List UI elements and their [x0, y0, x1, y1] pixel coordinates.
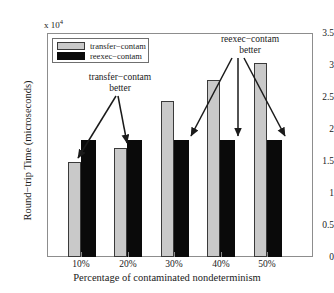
legend-swatch-reexec-contam — [57, 52, 85, 60]
bar-reexec-contam-30 — [174, 140, 189, 257]
x-axis-title: Percentage of contaminated nondeterminis… — [0, 272, 334, 283]
x-tick-label-20: 20% — [103, 259, 153, 269]
legend-item-transfer-contam: transfer−contam — [57, 41, 146, 51]
y-axis-multiplier-base: x 10 — [44, 20, 60, 30]
bar-transfer-contam-20 — [114, 148, 127, 257]
bar-reexec-contam-20 — [127, 140, 142, 257]
bar-transfer-contam-50 — [254, 63, 267, 257]
annotation-transfer-better-line1: transfer−contam — [60, 72, 180, 83]
bar-reexec-contam-40 — [220, 140, 235, 257]
bar-reexec-contam-10 — [81, 140, 96, 257]
legend-label-reexec-contam: reexec−contam — [90, 52, 142, 61]
x-tick-label-40: 40% — [196, 259, 246, 269]
annotation-reexec-better-line1: reexec−contam — [190, 34, 310, 45]
x-tick-mark — [221, 252, 222, 257]
chart-legend: transfer−contam reexec−contam — [52, 38, 149, 63]
y-axis-multiplier: x 104 — [44, 18, 63, 30]
annotation-transfer-better-line2: better — [60, 83, 180, 94]
annotation-reexec-better-line2: better — [190, 45, 310, 56]
chart-figure: x 104 Round−trip Time (microseconds) 0 0… — [0, 0, 334, 293]
legend-item-reexec-contam: reexec−contam — [57, 51, 142, 61]
legend-label-transfer-contam: transfer−contam — [90, 42, 146, 51]
annotation-transfer-better: transfer−contam better — [60, 72, 180, 94]
x-tick-mark — [128, 252, 129, 257]
y-axis-multiplier-exponent: 4 — [60, 18, 63, 25]
annotation-reexec-better: reexec−contam better — [190, 34, 310, 56]
x-tick-label-50: 50% — [242, 259, 292, 269]
x-tick-mark — [174, 252, 175, 257]
y-axis-title: Round−trip Time (microseconds) — [22, 61, 33, 241]
x-tick-mark — [81, 252, 82, 257]
x-tick-label-30: 30% — [149, 259, 199, 269]
x-tick-label-10: 10% — [56, 259, 106, 269]
bar-reexec-contam-50 — [267, 140, 282, 257]
bar-transfer-contam-30 — [161, 101, 174, 257]
x-tick-mark — [267, 252, 268, 257]
bar-transfer-contam-40 — [207, 80, 220, 257]
legend-swatch-transfer-contam — [57, 42, 85, 50]
bar-transfer-contam-10 — [68, 162, 81, 257]
